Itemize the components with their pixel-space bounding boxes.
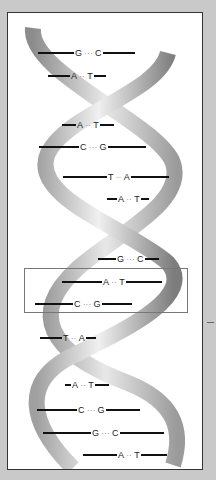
hydrogen-bond: ··· — [84, 50, 95, 57]
pointer-tick — [207, 322, 214, 323]
base-left: A — [117, 450, 126, 460]
base-pair: A ·· T — [48, 72, 106, 80]
base-pair: C ··· G — [37, 406, 140, 414]
base-pair: T ·· A — [40, 334, 96, 342]
hydrogen-bond: ·· — [80, 382, 88, 389]
base-left: A — [71, 380, 80, 390]
hydrogen-bond: ·· — [79, 73, 87, 80]
base-left: C — [79, 142, 88, 152]
base-left: A — [76, 120, 85, 130]
base-left: G — [74, 48, 84, 58]
hydrogen-bond: ·· — [126, 452, 134, 459]
base-left: A — [117, 194, 126, 204]
base-left: G — [116, 254, 126, 264]
base-right: T — [133, 450, 141, 460]
base-right: G — [97, 405, 107, 415]
hydrogen-bond: ·· — [111, 279, 119, 286]
base-left: T — [107, 172, 115, 182]
base-pair: A ·· T — [107, 195, 149, 203]
double-helix-strands — [8, 13, 203, 470]
base-pair: A ·· T — [83, 451, 167, 459]
base-right: A — [78, 333, 87, 343]
base-right: T — [118, 277, 126, 287]
base-pair: A ·· T — [65, 381, 109, 389]
base-left: A — [70, 71, 79, 81]
base-pair: C ··· G — [39, 143, 146, 151]
base-right: A — [123, 172, 132, 182]
hydrogen-bond: ··· — [82, 301, 93, 308]
base-right: T — [86, 71, 94, 81]
base-left: C — [77, 405, 86, 415]
base-right: T — [87, 380, 95, 390]
base-pair: G ··· C — [38, 49, 135, 57]
hydrogen-bond: ·· — [70, 335, 78, 342]
hydrogen-bond: ·· — [85, 122, 93, 129]
base-left: G — [91, 428, 101, 438]
diagram-panel: G ··· C A ·· T A ·· T C ··· G T ·· A A ·… — [7, 12, 203, 470]
base-pair: C ··· G — [35, 300, 132, 308]
base-pair: G ··· C — [98, 255, 159, 263]
base-pair: G ··· C — [43, 429, 164, 437]
hydrogen-bond: ·· — [126, 196, 134, 203]
hydrogen-bond: ··· — [101, 430, 112, 437]
base-right: T — [133, 194, 141, 204]
base-right: G — [99, 142, 109, 152]
base-right: C — [111, 428, 120, 438]
base-right: C — [94, 48, 103, 58]
base-left: T — [62, 333, 70, 343]
base-right: G — [93, 299, 103, 309]
base-pair: T ·· A — [63, 173, 169, 181]
hydrogen-bond: ··· — [88, 144, 99, 151]
base-right: C — [136, 254, 145, 264]
hydrogen-bond: ··· — [86, 407, 97, 414]
hydrogen-bond: ··· — [126, 256, 137, 263]
base-pair: A ·· T — [62, 121, 114, 129]
base-right: T — [92, 120, 100, 130]
base-left: A — [102, 277, 111, 287]
base-left: C — [73, 299, 82, 309]
base-pair highlighted-pair: A ·· T — [62, 278, 162, 286]
hydrogen-bond: ·· — [115, 174, 123, 181]
